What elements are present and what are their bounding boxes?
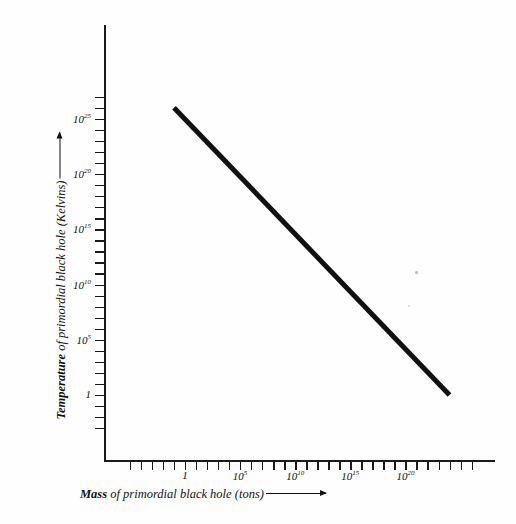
x-axis-title-rest: of primordial black hole (tons) [107, 487, 264, 501]
x-axis-title: Mass of primordial black hole (tons) [80, 487, 326, 502]
scan-speck [408, 305, 410, 307]
data-series-line [0, 0, 516, 524]
x-axis-title-bold: Mass [80, 487, 107, 501]
y-axis-title-rest: of primordial black hole (Kelvins) [54, 181, 68, 354]
scan-speck [415, 271, 418, 274]
figure-loglog-black-hole-temperature: 10251020101510101051 1105101010151020 Ma… [0, 0, 516, 524]
x-axis-arrow-icon [266, 493, 326, 494]
y-axis-title-bold: Temperature [54, 354, 68, 420]
y-axis-arrow-icon [60, 133, 61, 179]
y-axis-title: Temperature of primordial black hole (Ke… [54, 90, 69, 420]
